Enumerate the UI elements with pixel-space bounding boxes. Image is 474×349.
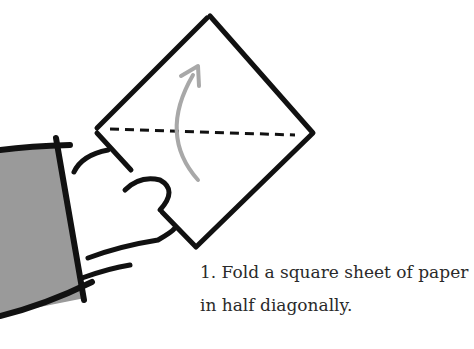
caption-line-1: 1. Fold a square sheet of paper: [200, 256, 474, 289]
step-caption: 1. Fold a square sheet of paper in half …: [200, 256, 474, 322]
hand-thumb-bottom: [88, 228, 175, 258]
hand-finger-2: [125, 179, 169, 210]
fold-arrow: [177, 75, 198, 180]
hand-finger-1: [74, 150, 108, 172]
caption-line-2: in half diagonally.: [200, 289, 474, 322]
fold-line-dashed: [110, 129, 295, 135]
hand-lower: [82, 265, 130, 278]
